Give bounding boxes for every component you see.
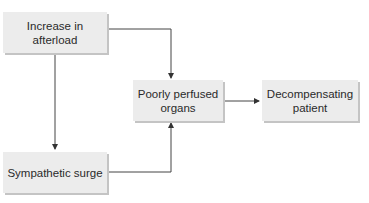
- arrow-sympathetic-to-perfused: [108, 123, 171, 172]
- node-sympathetic-surge: Sympathetic surge: [3, 152, 107, 193]
- node-label-line1: Decompensating: [267, 87, 353, 101]
- node-label: Increase in afterload: [3, 19, 107, 47]
- arrow-afterload-to-perfused: [108, 29, 171, 78]
- node-label-line1: Poorly perfused: [138, 87, 219, 101]
- node-label: Sympathetic surge: [7, 166, 102, 180]
- node-decompensating-patient: Decompensating patient: [262, 80, 358, 121]
- node-label-line2: organs: [160, 101, 195, 115]
- node-poorly-perfused-organs: Poorly perfused organs: [133, 80, 223, 121]
- node-increase-in-afterload: Increase in afterload: [3, 12, 107, 53]
- node-label-line2: patient: [293, 101, 328, 115]
